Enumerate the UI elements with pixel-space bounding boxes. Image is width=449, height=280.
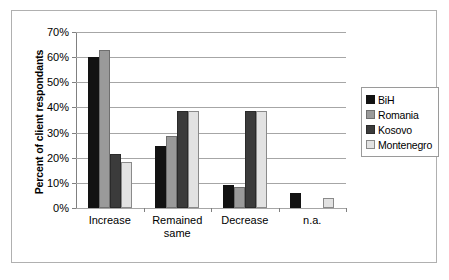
bar-montenegro-2: [256, 111, 267, 208]
bar-bih-3: [290, 193, 301, 208]
legend-item: BiH: [366, 92, 435, 107]
category-label: Decrease: [211, 214, 279, 227]
y-axis-tick-label: 70%: [47, 26, 69, 38]
category-label: Increase: [76, 214, 144, 227]
y-axis-tick-label: 60%: [47, 51, 69, 63]
bar-kosovo-2: [245, 111, 256, 208]
y-axis-tick-label: 20%: [47, 152, 69, 164]
y-axis-tick-label: 0%: [53, 202, 69, 214]
legend-swatch-icon: [366, 110, 375, 119]
category-label: n.a.: [279, 214, 347, 227]
category-tick: [279, 208, 280, 212]
bar-romania-1: [166, 136, 177, 208]
legend-label: BiH: [378, 94, 394, 106]
legend-swatch-icon: [366, 95, 375, 104]
y-axis-tick-label: 40%: [47, 101, 69, 113]
y-axis-tick-label: 10%: [47, 177, 69, 189]
legend-item: Romania: [366, 107, 435, 122]
bar-montenegro-3: [323, 198, 334, 208]
category-tick: [346, 208, 347, 212]
chart-figure: Percent of client respondants 0%10%20%30…: [0, 0, 449, 280]
legend-swatch-icon: [366, 125, 375, 134]
bar-montenegro-0: [121, 162, 132, 208]
legend-label: Montenegro: [378, 139, 432, 151]
legend-label: Kosovo: [378, 124, 412, 136]
legend-swatch-icon: [366, 140, 375, 149]
bar-bih-0: [88, 57, 99, 208]
category-tick: [211, 208, 212, 212]
chart-legend: BiHRomaniaKosovoMontenegro: [361, 87, 439, 157]
y-axis-tick-label: 30%: [47, 127, 69, 139]
bar-bih-2: [223, 185, 234, 208]
y-axis-tick-label: 50%: [47, 76, 69, 88]
bar-montenegro-1: [188, 111, 199, 208]
bar-romania-0: [99, 50, 110, 208]
y-axis-title: Percent of client respondants: [33, 37, 45, 207]
bar-series-layer: [76, 32, 346, 208]
y-axis-tick: [72, 208, 76, 209]
legend-item: Montenegro: [366, 137, 435, 152]
bar-kosovo-0: [110, 154, 121, 208]
legend-item: Kosovo: [366, 122, 435, 137]
plot-area: 0%10%20%30%40%50%60%70% IncreaseRemained…: [76, 32, 346, 208]
bar-kosovo-1: [177, 111, 188, 208]
category-tick: [144, 208, 145, 212]
category-label: Remained same: [144, 214, 212, 239]
figure-border: Percent of client respondants 0%10%20%30…: [11, 10, 437, 263]
bar-bih-1: [155, 146, 166, 208]
legend-label: Romania: [378, 109, 419, 121]
bar-romania-2: [234, 187, 245, 208]
